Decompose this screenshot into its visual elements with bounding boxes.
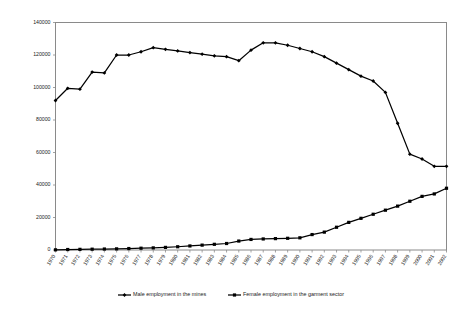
- data-point-marker: [164, 246, 167, 249]
- x-axis-tick-label: 1973: [82, 253, 93, 266]
- x-axis-tick-label: 1997: [375, 253, 386, 266]
- legend-marker: [233, 293, 236, 296]
- employment-line-chart: 020000400006000080000100000120000140000 …: [0, 0, 472, 309]
- data-point-marker: [237, 239, 240, 242]
- data-point-marker: [433, 192, 436, 195]
- data-point-marker: [286, 237, 289, 240]
- y-axis-tick-label: 120000: [33, 51, 50, 57]
- data-point-marker: [54, 248, 57, 251]
- data-point-marker: [323, 231, 326, 234]
- data-point-marker: [188, 244, 191, 247]
- plot-area-frame: [56, 23, 447, 251]
- data-point-marker: [420, 195, 423, 198]
- data-point-marker: [201, 244, 204, 247]
- data-point-marker: [151, 46, 155, 50]
- y-axis-tick-label: 40000: [36, 181, 51, 187]
- data-point-marker: [372, 213, 375, 216]
- data-point-marker: [127, 53, 131, 57]
- series-line-1: [56, 43, 447, 167]
- data-point-marker: [310, 50, 314, 54]
- data-point-marker: [66, 248, 69, 251]
- data-point-marker: [262, 237, 265, 240]
- data-point-marker: [212, 54, 216, 58]
- data-point-marker: [139, 247, 142, 250]
- x-axis-tick-label: 1993: [326, 253, 337, 266]
- x-axis-tick-label: 1978: [143, 253, 154, 266]
- x-axis-tick-label: 1990: [290, 253, 301, 266]
- data-point-marker: [359, 217, 362, 220]
- x-axis-tick-label: 1994: [338, 253, 349, 266]
- data-point-marker: [139, 50, 143, 54]
- x-axis-tick-labels: 1970197119721973197419751976197719781979…: [45, 250, 447, 266]
- y-axis-tick-label: 60000: [36, 149, 51, 155]
- x-axis-tick-label: 1996: [363, 253, 374, 266]
- data-point-marker: [91, 248, 94, 251]
- x-axis-tick-label: 1971: [57, 253, 68, 266]
- data-point-marker: [176, 49, 180, 53]
- data-point-marker: [127, 247, 130, 250]
- legend-marker: [123, 293, 127, 297]
- data-point-marker: [78, 248, 81, 251]
- data-point-marker: [347, 221, 350, 224]
- data-point-marker: [335, 226, 338, 229]
- legend-label: Male employment in the mines: [133, 291, 206, 297]
- legend-label: Female employment in the garment sector: [243, 291, 344, 297]
- legend-item-2: Female employment in the garment sector: [228, 291, 344, 297]
- data-point-marker: [152, 246, 155, 249]
- y-axis-tick-label: 80000: [36, 116, 51, 122]
- x-axis-tick-label: 1977: [131, 253, 142, 266]
- x-axis-tick-label: 1983: [204, 253, 215, 266]
- series-layer: [54, 41, 449, 252]
- chart-legend: Male employment in the minesFemale emplo…: [118, 291, 344, 297]
- x-axis-tick-label: 1992: [314, 253, 325, 266]
- x-axis-tick-label: 1980: [167, 253, 178, 266]
- data-point-marker: [396, 205, 399, 208]
- x-axis-tick-label: 1987: [253, 253, 264, 266]
- x-axis-tick-label: 2001: [424, 253, 435, 266]
- x-axis-tick-label: 1999: [399, 253, 410, 266]
- data-point-marker: [298, 236, 301, 239]
- x-axis-tick-label: 1982: [192, 253, 203, 266]
- data-point-marker: [274, 41, 278, 45]
- data-point-marker: [176, 245, 179, 248]
- data-point-marker: [188, 51, 192, 55]
- data-point-marker: [274, 237, 277, 240]
- data-point-marker: [213, 243, 216, 246]
- x-axis-tick-label: 1976: [118, 253, 129, 266]
- data-point-marker: [384, 209, 387, 212]
- x-axis-tick-label: 1985: [228, 253, 239, 266]
- data-point-marker: [445, 187, 448, 190]
- x-axis-tick-label: 2000: [412, 253, 423, 266]
- x-axis-tick-label: 1989: [277, 253, 288, 266]
- data-point-marker: [445, 164, 449, 168]
- data-point-marker: [286, 43, 290, 47]
- y-axis-tick-labels: 020000400006000080000100000120000140000: [33, 19, 55, 253]
- data-point-marker: [298, 47, 302, 51]
- x-axis-tick-label: 1984: [216, 253, 227, 266]
- data-point-marker: [408, 152, 412, 156]
- data-point-marker: [103, 247, 106, 250]
- x-axis-tick-label: 1998: [387, 253, 398, 266]
- chart-container: 020000400006000080000100000120000140000 …: [0, 0, 472, 309]
- data-point-marker: [408, 200, 411, 203]
- data-point-marker: [310, 233, 313, 236]
- data-point-marker: [164, 47, 168, 51]
- legend-item-1: Male employment in the mines: [118, 291, 206, 297]
- x-axis-tick-label: 1991: [302, 253, 313, 266]
- x-axis-tick-label: 1981: [180, 253, 191, 266]
- data-point-marker: [200, 52, 204, 56]
- y-axis-tick-label: 20000: [36, 214, 51, 220]
- x-axis-tick-label: 1979: [155, 253, 166, 266]
- x-axis-tick-label: 1974: [94, 253, 105, 266]
- x-axis-tick-label: 1986: [241, 253, 252, 266]
- x-axis-tick-label: 1975: [106, 253, 117, 266]
- data-point-marker: [115, 247, 118, 250]
- y-axis-tick-label: 0: [48, 246, 51, 252]
- x-axis-tick-label: 1970: [45, 253, 56, 266]
- data-point-marker: [225, 55, 229, 59]
- y-axis-tick-label: 100000: [33, 84, 50, 90]
- y-axis-tick-label: 140000: [33, 19, 50, 25]
- x-axis-tick-label: 1995: [351, 253, 362, 266]
- x-axis-tick-label: 1988: [265, 253, 276, 266]
- data-point-marker: [225, 242, 228, 245]
